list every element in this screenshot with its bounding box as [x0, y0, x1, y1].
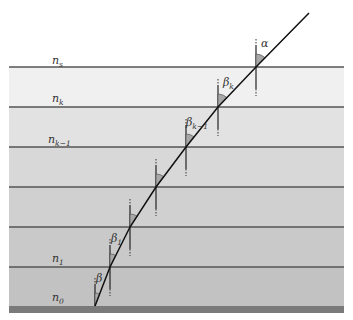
- refraction-diagram: nsnknk−1n1n0αβkβk−1β1β: [0, 0, 353, 320]
- layer-label-0: ns: [52, 54, 63, 69]
- layer-3: [9, 187, 344, 227]
- substrate: [9, 306, 344, 313]
- angle-label-0: α: [261, 37, 269, 50]
- layer-2: [9, 147, 344, 187]
- angle-label-4: β: [95, 272, 102, 285]
